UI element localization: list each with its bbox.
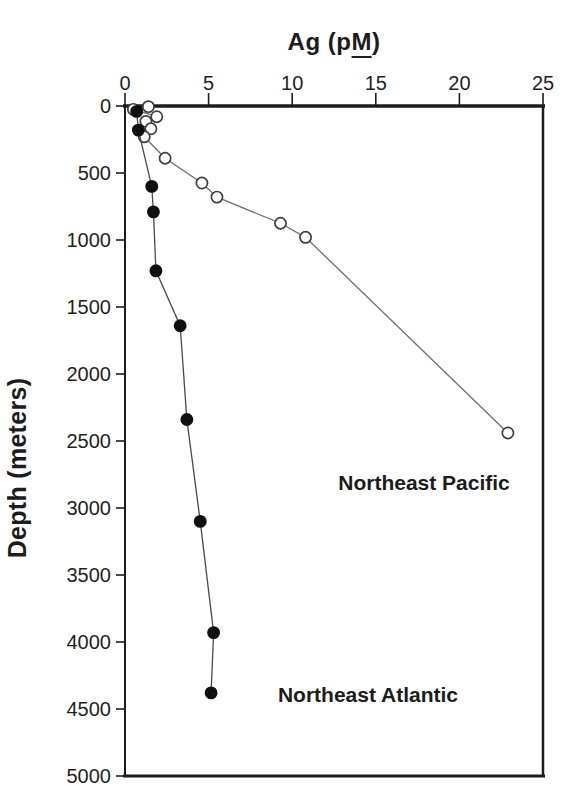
- data-point-northeast-atlantic: [195, 516, 206, 527]
- y-tick-label: 4000: [67, 631, 112, 653]
- data-point-northeast-pacific: [502, 427, 513, 438]
- y-tick-label: 4500: [67, 698, 112, 720]
- y-tick-label: 500: [78, 162, 111, 184]
- data-point-northeast-pacific: [160, 153, 171, 164]
- x-tick-label: 5: [203, 72, 214, 94]
- data-point-northeast-atlantic: [208, 627, 219, 638]
- y-tick-label: 2500: [67, 430, 112, 452]
- y-tick-label: 1000: [67, 229, 112, 251]
- y-tick-label: 2000: [67, 363, 112, 385]
- y-tick-label: 0: [100, 95, 111, 117]
- x-tick-label: 0: [119, 72, 130, 94]
- y-tick-label: 5000: [67, 765, 112, 787]
- data-point-northeast-atlantic: [146, 181, 157, 192]
- series-line-northeast-atlantic: [137, 111, 214, 693]
- data-point-northeast-pacific: [151, 111, 162, 122]
- x-tick-label: 25: [532, 72, 554, 94]
- x-tick-label: 15: [365, 72, 387, 94]
- annotation-northeast-atlantic: Northeast Atlantic: [278, 683, 458, 707]
- y-tick-label: 3000: [67, 497, 112, 519]
- data-point-northeast-pacific: [300, 232, 311, 243]
- data-point-northeast-atlantic: [206, 687, 217, 698]
- x-tick-label: 10: [281, 72, 303, 94]
- series-line-northeast-pacific: [133, 107, 508, 433]
- data-point-northeast-atlantic: [131, 106, 142, 117]
- data-point-northeast-atlantic: [148, 206, 159, 217]
- data-point-northeast-pacific: [211, 192, 222, 203]
- data-point-northeast-pacific: [275, 218, 286, 229]
- data-point-northeast-pacific: [196, 177, 207, 188]
- y-tick-label: 3500: [67, 564, 112, 586]
- annotation-northeast-pacific: Northeast Pacific: [338, 471, 510, 495]
- ag-depth-profile-figure: Ag (pM) Depth (meters) 05101520250500100…: [0, 0, 574, 804]
- y-tick-label: 1500: [67, 296, 112, 318]
- data-point-northeast-atlantic: [133, 125, 144, 136]
- data-point-northeast-atlantic: [150, 265, 161, 276]
- data-point-northeast-atlantic: [181, 414, 192, 425]
- x-tick-label: 20: [448, 72, 470, 94]
- data-point-northeast-atlantic: [175, 320, 186, 331]
- data-point-northeast-pacific: [143, 101, 154, 112]
